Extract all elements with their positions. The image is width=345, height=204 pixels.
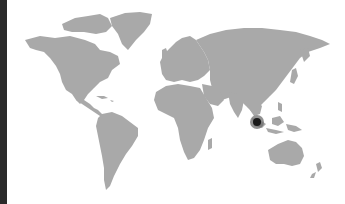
location-marker[interactable] — [250, 115, 264, 129]
marker-dot-icon[interactable] — [253, 118, 261, 126]
australia — [268, 140, 304, 166]
greenland — [110, 12, 152, 50]
new-zealand — [310, 162, 322, 178]
north-america — [25, 36, 120, 104]
world-map-svg — [7, 0, 345, 204]
central-america — [76, 100, 104, 118]
left-border-bar — [0, 0, 7, 204]
caribbean-islands — [96, 96, 114, 102]
japan — [290, 68, 298, 84]
world-map — [7, 0, 345, 204]
south-america — [96, 112, 138, 190]
arctic-islands — [62, 14, 112, 34]
madagascar — [208, 138, 212, 150]
